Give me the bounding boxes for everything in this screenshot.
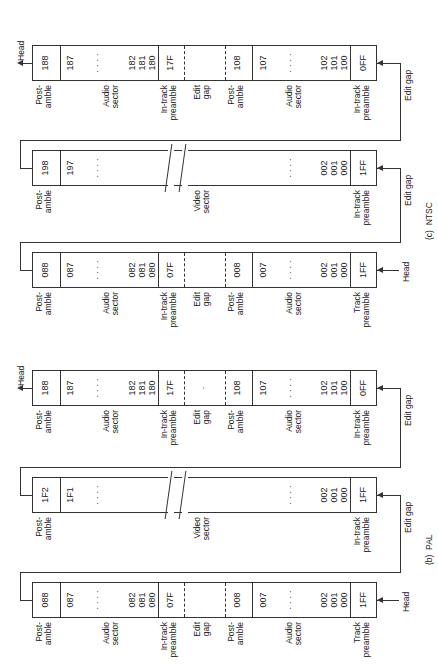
sector-number: 07F [165,583,175,617]
arrow-icon [377,597,383,603]
field-label: Track preamble [353,622,373,662]
dashed-divider [225,371,226,405]
sector-number: 07F [165,253,175,287]
sector-number: 002 001 000 [319,253,349,287]
sector-number: 197 [65,151,75,185]
divider [60,371,61,405]
field-label: Edit gap [193,622,213,662]
sector-number: · · · · [285,478,295,512]
dashed-divider [225,583,226,617]
sector-number [198,583,208,617]
sector-number: 187 [65,371,75,405]
sector-number: · · · · [285,583,295,617]
sector-number: 082 081 080 [127,583,157,617]
head-label: Head [402,258,412,282]
field-label: Post- amble [227,622,247,662]
sector-number: 087 [65,583,75,617]
sector-number: 088 [40,583,50,617]
edit-gap-label: Edit gap [404,493,414,533]
sector-number: · · · · [92,151,102,185]
head-label: Head [17,37,27,61]
dashed-divider [184,583,185,617]
sector-number: 002 001 000 [319,583,349,617]
sector-number: 182 181 180 [127,371,157,405]
sector-number: 108 [232,371,242,405]
connector-line [20,572,21,600]
edit-gap-label: Edit gap [404,166,414,206]
sector-number: 088 [40,253,50,287]
field-label: In-track preamble [160,292,180,332]
divider [350,583,351,617]
sector-number: 008 [232,253,242,287]
sector-number: · · · · [92,478,102,512]
field-label: Audio sector [285,622,305,662]
connector-line [20,467,21,495]
sector-number: 0FF [358,46,368,80]
sector-number: 1F1 [65,478,75,512]
sector-number: 187 [65,46,75,80]
connector-line [20,242,401,243]
sector-number: 17F [165,46,175,80]
divider [60,583,61,617]
sector-number: · · · · [285,151,295,185]
field-label: Post- amble [35,517,55,557]
edit-gap-label: Edit gap [404,386,414,426]
field-label: Post- amble [227,292,247,332]
divider [60,151,61,185]
field-label: Post- amble [35,622,55,662]
divider [252,371,253,405]
connector-line [400,168,401,242]
sector-number: 182 181 180 [127,46,157,80]
divider [252,583,253,617]
field-label: Post- amble [35,190,55,230]
sector-number: 188 [40,46,50,80]
arrow-icon [377,385,383,391]
field-label: Audio sector [285,292,305,332]
field-label: Post- amble [35,410,55,450]
field-label: Audio sector [102,85,122,125]
field-label: Edit gap [193,85,213,125]
field-label: Post- amble [35,85,55,125]
sector-number: · · · · [285,371,295,405]
arrow-icon [377,492,383,498]
divider [350,371,351,405]
caption-pal: (b) PAL [425,515,435,565]
divider [350,478,351,512]
field-label: Audio sector [285,85,305,125]
sector-number: · · · · [92,46,102,80]
field-label: Post- amble [35,292,55,332]
dashed-divider [225,46,226,80]
divider [158,46,159,80]
connector-line [20,140,21,168]
field-label: Audio sector [102,292,122,332]
head-label: Head [17,362,27,386]
connector-line [20,495,32,496]
sector-number: 107 [258,371,268,405]
connector-line [20,242,21,270]
divider [60,478,61,512]
field-label: Video sector [193,190,213,230]
field-label: Edit gap [193,410,213,450]
sector-number: · · · · [285,46,295,80]
dashed-divider [184,371,185,405]
field-label: Post- amble [227,410,247,450]
dashed-divider [225,253,226,287]
field-label: In-track preamble [353,410,373,450]
sector-number [198,46,208,80]
divider [350,151,351,185]
dashed-divider [184,253,185,287]
sector-number: 007 [258,583,268,617]
field-label: Track preamble [353,292,373,332]
sector-number: · · · · [92,253,102,287]
head-label: Head [402,588,412,612]
sector-number: 002 001 000 [319,478,349,512]
field-label: In-track preamble [160,622,180,662]
connector-line [20,168,32,169]
divider [158,253,159,287]
sector-number: 002 001 000 [319,151,349,185]
divider [158,583,159,617]
sector-number: 1FF [358,583,368,617]
connector-line [400,495,401,572]
connector-line [20,467,401,468]
connector-line [400,63,401,140]
